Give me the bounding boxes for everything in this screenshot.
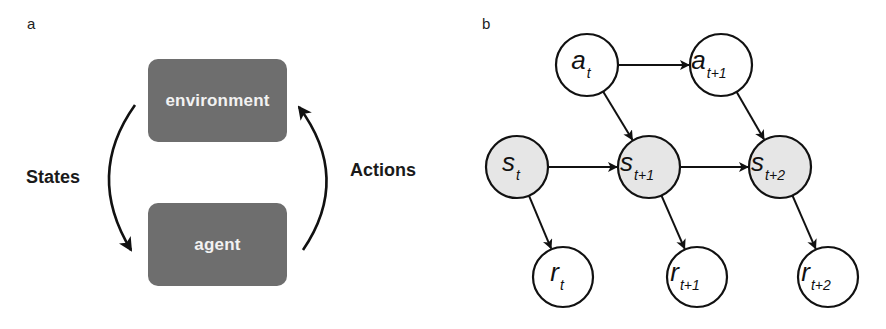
node-a_t: at (556, 34, 618, 96)
node-s_t1: st+1 (618, 136, 680, 198)
edge-a_t-to-s_t1 (603, 91, 632, 139)
edge-s_t2-to-r_t2 (792, 195, 815, 248)
node-r_t: rt (533, 247, 593, 307)
states-arrow (109, 105, 135, 250)
edge-s_t1-to-r_t1 (661, 195, 684, 248)
node-s_t2: st+2 (749, 136, 811, 198)
node-r_t2: rt+2 (798, 247, 858, 307)
actions-arrow (299, 107, 327, 250)
edge-a_t1-to-s_t2 (737, 92, 764, 139)
edge-s_t-to-r_t (529, 196, 551, 249)
node-r_t1: rt+1 (667, 247, 727, 307)
diagram-canvas: atat+1stst+1st+2rtrt+1rt+2 (0, 0, 886, 329)
node-a_t1: at+1 (690, 34, 752, 96)
nodes-layer: atat+1stst+1st+2rtrt+1rt+2 (486, 34, 858, 307)
node-s_t: st (486, 136, 548, 198)
